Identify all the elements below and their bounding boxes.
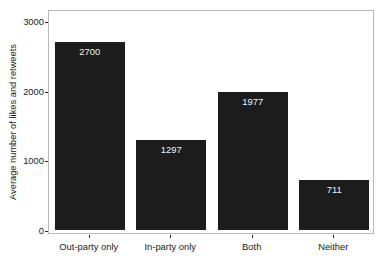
y-axis-tick-label: 3000: [14, 17, 44, 27]
plot-area: 270012971977711: [48, 10, 374, 234]
x-axis-tick-label: Both: [242, 241, 261, 253]
x-axis-tick-label: In-party only: [144, 241, 196, 253]
x-axis-tick-mark: [170, 235, 171, 238]
x-axis-tick-mark: [333, 235, 334, 238]
bar-value-label: 2700: [55, 46, 125, 57]
bar[interactable]: 1977: [218, 92, 288, 230]
x-axis-tick-mark: [89, 235, 90, 238]
bar[interactable]: 711: [299, 180, 369, 230]
y-axis-tick-label: 0: [14, 226, 44, 236]
y-axis-tick-mark: [45, 231, 48, 232]
bar[interactable]: 1297: [136, 140, 206, 230]
x-axis-tick-mark: [252, 235, 253, 238]
bar-value-label: 1977: [218, 96, 288, 107]
bar-value-label: 1297: [136, 144, 206, 155]
x-axis-tick-label: Neither: [318, 241, 348, 253]
y-axis-tick-labels: 0100020003000: [14, 0, 44, 269]
bar-chart-figure: Average number of likes and retweets 010…: [0, 0, 382, 269]
y-axis-tick-label: 2000: [14, 87, 44, 97]
bar-value-label: 711: [299, 184, 369, 195]
y-axis-tick-label: 1000: [14, 156, 44, 166]
y-axis-tick-mark: [45, 22, 48, 23]
x-axis-tick-label: Out-party only: [59, 241, 118, 253]
y-axis-tick-mark: [45, 161, 48, 162]
y-axis-tick-mark: [45, 92, 48, 93]
bar[interactable]: 2700: [55, 42, 125, 230]
